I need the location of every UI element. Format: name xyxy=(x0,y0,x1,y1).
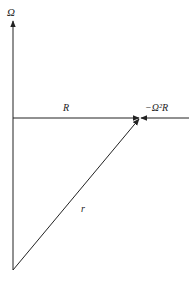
r-horizontal-label: R xyxy=(62,102,69,113)
vector-diagram: Ω R −Ω²R r xyxy=(0,0,189,281)
force-label: −Ω²R xyxy=(145,102,168,113)
r-vector-diagonal xyxy=(13,119,139,270)
r-diagonal-label: r xyxy=(81,203,85,214)
omega-label: Ω xyxy=(7,6,15,18)
